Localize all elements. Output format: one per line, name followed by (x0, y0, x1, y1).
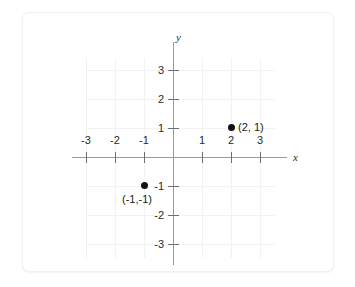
x-tick-neg1 (144, 152, 145, 163)
y-tick-2 (168, 99, 179, 100)
grid-line-horizontal-y-2 (86, 99, 275, 100)
y-tick-3 (168, 70, 179, 71)
coordinate-plane: -3 -2 -1 1 2 3 3 2 1 -1 -2 -3 x y (2, 1)… (0, 0, 355, 287)
x-tick-3 (260, 152, 261, 163)
grid-line-horizontal-y-3 (86, 70, 275, 71)
x-tick-1 (202, 152, 203, 163)
x-tick-label-1: 1 (191, 135, 213, 146)
x-axis (72, 157, 287, 158)
data-point-label-neg1-neg1: (-1,-1) (122, 194, 152, 205)
data-point-label-2-1: (2, 1) (238, 122, 264, 133)
grid-line-horizontal-y-neg1 (86, 186, 275, 187)
y-tick-label-neg2: -2 (142, 210, 164, 221)
x-tick-label-neg2: -2 (104, 135, 126, 146)
x-tick-label-neg1: -1 (133, 135, 155, 146)
y-axis-label: y (176, 32, 181, 43)
y-axis (173, 42, 174, 265)
y-tick-neg2 (168, 215, 179, 216)
x-tick-label-3: 3 (249, 135, 271, 146)
y-tick-label-neg3: -3 (142, 239, 164, 250)
y-tick-label-1: 1 (142, 123, 164, 134)
y-tick-label-3: 3 (142, 65, 164, 76)
y-tick-neg3 (168, 244, 179, 245)
x-tick-neg2 (115, 152, 116, 163)
x-tick-label-2: 2 (220, 135, 242, 146)
data-point-2-1 (228, 124, 235, 131)
x-tick-label-neg3: -3 (75, 135, 97, 146)
y-tick-1 (168, 128, 179, 129)
grid-line-horizontal-y-neg2 (86, 215, 275, 216)
y-tick-label-2: 2 (142, 94, 164, 105)
x-tick-2 (231, 152, 232, 163)
x-tick-neg3 (86, 152, 87, 163)
y-tick-neg1 (168, 186, 179, 187)
data-point-neg1-neg1 (141, 182, 148, 189)
x-axis-label: x (293, 152, 298, 163)
grid-line-horizontal-y-neg3 (86, 244, 275, 245)
